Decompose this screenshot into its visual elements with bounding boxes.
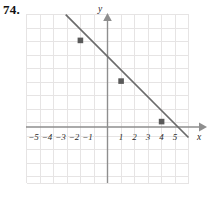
data-point-marker <box>118 78 124 84</box>
data-point-marker <box>159 119 165 125</box>
data-point-marker <box>78 38 84 44</box>
y-axis <box>103 13 112 183</box>
x-tick-label: 3 <box>145 132 151 142</box>
x-tick-label: −1 <box>82 132 93 142</box>
x-tick-label: −2 <box>69 132 80 142</box>
plotted-line <box>66 15 189 138</box>
x-tick-label: 4 <box>159 132 164 142</box>
x-tick-label: −4 <box>42 132 53 142</box>
graph-svg: −5 −4 −3 −2 −1 1 2 3 4 5 x y <box>0 0 216 198</box>
x-axis-label: x <box>196 132 202 142</box>
x-tick-label: 5 <box>173 132 178 142</box>
x-tick-label: −5 <box>28 132 39 142</box>
coordinate-plane-figure: −5 −4 −3 −2 −1 1 2 3 4 5 x y <box>0 0 216 198</box>
x-tick-label: −3 <box>55 132 66 142</box>
x-tick-label: 1 <box>119 132 124 142</box>
x-tick-labels: −5 −4 −3 −2 −1 1 2 3 4 5 <box>28 132 178 142</box>
x-tick-label: 2 <box>132 132 137 142</box>
y-axis-label: y <box>97 4 103 14</box>
